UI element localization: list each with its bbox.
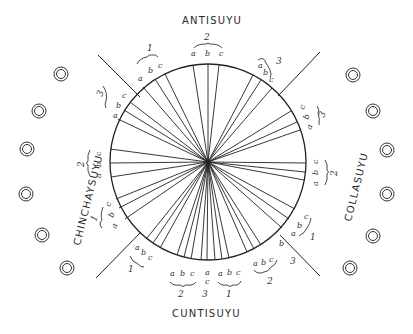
svg-text:a: a [311,181,320,186]
svg-text:a: a [191,49,196,58]
svg-text:c: c [269,255,274,264]
quarter-label-antisuyu: ANTISUYU [182,15,242,26]
svg-text:a: a [253,259,258,268]
ring-marker-icon [35,228,49,242]
svg-text:a: a [205,268,210,277]
svg-text:c: c [236,268,241,277]
num-collasuyu-2: 2 [329,170,339,177]
ring-marker-icon [343,261,357,275]
svg-text:b: b [227,268,232,277]
num-chinchaysuyu-1: 1 [88,214,99,223]
side-markers-left [19,67,74,275]
ring-marker-icon [20,142,34,156]
quarter-label-collasuyu: COLLASUYU [342,151,370,223]
svg-text:b: b [311,170,320,175]
ring-marker-icon [60,261,74,275]
svg-text:c: c [94,151,103,156]
num-cuntisuyu-3: 3 [202,289,208,299]
num-cuntisuyu-2-right: 2 [266,276,273,286]
ceque-diagram: ANTISUYU CUNTISUYU COLLASUYU CHINCHAYSUY… [0,0,413,334]
svg-text:a: a [170,269,175,278]
num-cuntisuyu-2: 2 [177,289,184,299]
svg-text:c: c [205,277,210,286]
svg-text:b: b [106,211,116,219]
divider-top-left [98,55,140,97]
svg-text:a: a [304,123,314,131]
svg-text:a: a [113,111,118,120]
num-cuntisuyu-3-right: 3 [290,256,296,266]
svg-text:a: a [291,229,296,238]
num-cuntisuyu-1: 1 [226,289,232,299]
svg-text:b: b [141,248,146,257]
num-cuntisuyu-1-left: 1 [128,264,134,274]
num-antisuyu-2: 2 [203,32,210,42]
svg-text:b: b [301,113,311,121]
svg-text:a: a [109,222,119,230]
svg-text:c: c [158,61,163,70]
svg-text:b: b [297,221,302,230]
svg-text:a: a [138,74,143,83]
ring-marker-icon [366,229,380,243]
svg-text:b: b [148,66,153,75]
svg-text:c: c [219,49,224,58]
svg-text:c: c [304,212,309,221]
svg-text:c: c [311,159,320,164]
svg-text:c: c [190,269,195,278]
svg-text:b: b [94,162,103,167]
ring-marker-icon [380,143,394,157]
svg-text:c: c [103,200,113,208]
ring-marker-icon [54,67,68,81]
svg-text:c: c [269,75,274,84]
svg-text:b: b [261,258,266,267]
divider-bottom-left [96,232,141,278]
ring-marker-icon [32,104,46,118]
svg-text:a: a [94,173,103,178]
svg-text:b: b [180,269,185,278]
svg-text:c: c [297,103,307,111]
ring-marker-icon [19,187,33,201]
ring-marker-icon [380,187,394,201]
svg-text:c: c [122,91,127,100]
radial-lines [110,64,306,260]
ring-marker-icon [366,104,380,118]
num-antisuyu-1: 1 [147,43,153,53]
svg-text:a: a [135,243,140,252]
svg-text:a: a [218,269,223,278]
num-antisuyu-3: 3 [276,56,282,66]
num-collasuyu-3: 3 [316,110,327,119]
quarter-label-cuntisuyu: CUNTISUYU [172,308,241,319]
num-chinchaysuyu-2: 2 [76,161,86,168]
ring-marker-icon [346,68,360,82]
svg-text:b: b [205,49,210,58]
num-chinchaysuyu-3: 3 [94,89,105,98]
side-markers-right [343,68,394,275]
divider-top-right [278,52,320,96]
svg-text:c: c [148,253,153,262]
num-collasuyu-1: 1 [310,232,316,242]
svg-text:b: b [116,101,121,110]
svg-text:b: b [263,68,268,77]
svg-text:b: b [279,239,284,248]
